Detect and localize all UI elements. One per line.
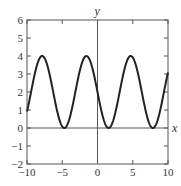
y-axis-label: y (94, 4, 101, 18)
y-tick-label: 6 (18, 14, 24, 26)
y-tick-label: 3 (18, 68, 24, 80)
tick-labels: −2−10123456−10−50510 (11, 14, 174, 178)
y-tick-label: 5 (18, 32, 24, 44)
x-axis-label: x (171, 121, 178, 135)
chart: −2−10123456−10−50510 x y (0, 0, 181, 186)
x-tick-label: 0 (95, 166, 101, 178)
x-tick-label: −10 (18, 166, 36, 178)
y-tick-label: 0 (18, 122, 24, 134)
y-tick-label: 1 (18, 104, 24, 116)
y-tick-label: 2 (18, 86, 24, 98)
y-tick-label: −1 (11, 140, 23, 152)
x-tick-label: 5 (130, 166, 136, 178)
x-tick-label: 10 (163, 166, 175, 178)
x-tick-label: −5 (56, 166, 68, 178)
y-tick-label: 4 (18, 50, 24, 62)
